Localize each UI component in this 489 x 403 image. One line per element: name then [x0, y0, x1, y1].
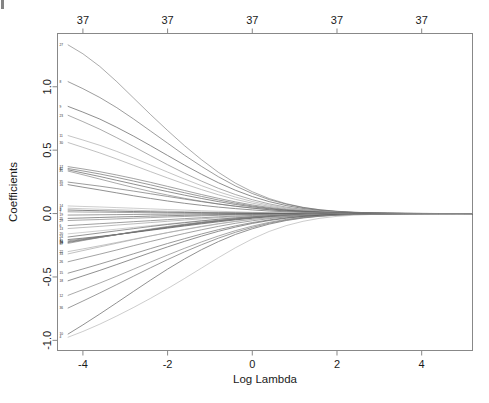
frame-rectangle [58, 34, 473, 351]
coefficient-path-line [68, 106, 472, 213]
variable-index-label: 30 [60, 141, 64, 145]
x-tick-label: 0 [249, 358, 255, 370]
variable-index-label: 21 [60, 169, 64, 173]
top-tick-label: 37 [331, 14, 343, 26]
x-tick-label: 4 [419, 358, 425, 370]
coefficient-path-line [68, 170, 472, 214]
variable-index-label: 8 [60, 80, 62, 84]
y-tick-label: -0.5 [41, 267, 53, 286]
coefficient-path-line [68, 45, 472, 214]
coefficient-path-line [68, 143, 472, 214]
variable-index-label: 12 [60, 294, 64, 298]
chart-canvas: 2789231130173252135161432719252961320241… [0, 0, 489, 403]
variable-index-label: 37 [60, 242, 64, 246]
variable-index-label: 27 [60, 43, 64, 47]
x-axis: -4-2024 [78, 351, 425, 370]
variable-index-label: 4 [60, 335, 62, 339]
top-tick-label: 37 [416, 14, 428, 26]
variable-index-label: 29 [60, 219, 64, 223]
variable-index-label: 9 [60, 105, 62, 109]
coefficient-path-line [68, 82, 472, 214]
variable-index-labels: 2789231130173252135161432719252961320241… [60, 43, 64, 339]
variable-index-label: 36 [60, 306, 64, 310]
coefficient-path-line [68, 214, 472, 338]
coefficient-path-line [68, 214, 472, 334]
top-axis-df: 3737373737 [58, 14, 473, 34]
y-axis: -1.0-0.50.00.51.0 [41, 79, 57, 350]
variable-index-label: 15 [60, 271, 64, 275]
corner-artifact-mark [1, 0, 4, 9]
y-axis-title: Coefficients [7, 162, 19, 222]
plot-frame [58, 34, 473, 351]
variable-index-label: 11 [60, 134, 64, 138]
coefficient-curves [68, 45, 472, 337]
variable-index-label: 23 [60, 114, 64, 118]
top-tick-label: 37 [246, 14, 258, 26]
variable-index-label: 13 [60, 227, 64, 231]
y-tick-label: 0.5 [41, 143, 53, 158]
variable-index-label: 16 [60, 183, 64, 187]
coefficient-path-line [68, 214, 472, 296]
y-tick-label: 0.0 [41, 206, 53, 221]
x-tick-label: -2 [163, 358, 173, 370]
x-tick-label: 2 [334, 358, 340, 370]
variable-index-label: 18 [60, 279, 64, 283]
y-tick-label: -1.0 [41, 331, 53, 350]
y-tick-label: 1.0 [41, 79, 53, 94]
x-axis-title: Log Lambda [233, 373, 298, 385]
coefficient-path-plot: 2789231130173252135161432719252961320241… [0, 0, 489, 403]
top-tick-label: 37 [77, 14, 89, 26]
variable-index-label: 26 [60, 260, 64, 264]
top-tick-label: 37 [161, 14, 173, 26]
x-tick-label: -4 [78, 358, 88, 370]
variable-index-label: 33 [60, 252, 64, 256]
